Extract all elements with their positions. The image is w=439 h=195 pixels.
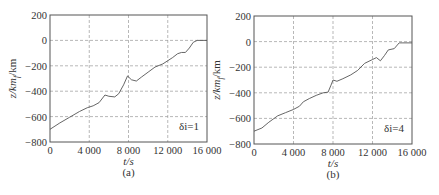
y-tick-label: −200 <box>229 62 251 73</box>
y-tick-label: 200 <box>31 10 47 21</box>
x-tick-label: 4 000 <box>282 147 306 158</box>
annotation-delta-i: δi=4 <box>384 122 404 134</box>
x-tick-label: 4 000 <box>77 145 101 156</box>
y-tick-label: −800 <box>25 137 47 148</box>
x-tick-label: 0 <box>251 147 256 158</box>
y-tick-label: 0 <box>42 35 47 46</box>
x-tick-label: 16 000 <box>193 145 222 156</box>
y-tick-label: −600 <box>229 113 251 124</box>
y-tick-label: 200 <box>235 11 251 22</box>
y-tick-label: −400 <box>25 86 47 97</box>
y-axis-label: z/kmf/km <box>210 60 225 101</box>
y-axis-label: z/kmf/km <box>6 58 21 99</box>
chart-panel-a: 04 0008 00012 00016 0002000−200−400−600−… <box>6 10 221 179</box>
x-tick-label: 12 000 <box>153 145 182 156</box>
annotation-delta-i: δi=1 <box>179 120 199 132</box>
x-tick-label: 16 000 <box>398 147 427 158</box>
y-tick-label: −800 <box>229 139 251 150</box>
y-tick-label: −400 <box>229 88 251 99</box>
y-tick-label: −200 <box>25 61 47 72</box>
y-tick-label: −600 <box>25 112 47 123</box>
x-tick-label: 0 <box>47 145 52 156</box>
x-tick-label: 12 000 <box>358 147 387 158</box>
chart-figure: 04 0008 00012 00016 0002000−200−400−600−… <box>0 0 439 195</box>
panel-label: (b) <box>327 168 340 181</box>
panel-label: (a) <box>122 166 135 179</box>
y-tick-label: 0 <box>246 37 251 48</box>
chart-panel-b: 04 0008 00012 00016 0002000−200−400−600−… <box>210 11 426 181</box>
